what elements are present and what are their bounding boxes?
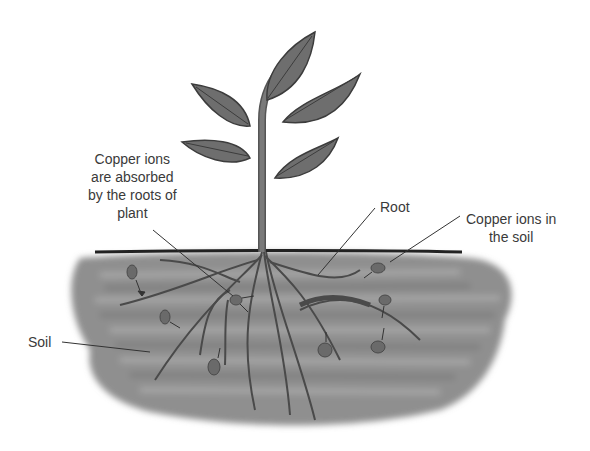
diagram-canvas: Copper ions are absorbed by the roots of… bbox=[0, 0, 590, 451]
label-soil: Soil bbox=[28, 333, 51, 351]
label-root: Root bbox=[380, 198, 410, 216]
leaves bbox=[182, 32, 360, 178]
label-copper-ions-soil: Copper ions in the soil bbox=[466, 210, 556, 246]
label-copper-absorbed: Copper ions are absorbed by the roots of… bbox=[88, 150, 177, 222]
